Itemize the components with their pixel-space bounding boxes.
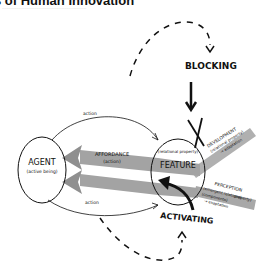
dashed-arc-bottom (100, 218, 182, 260)
blocking-label: BLOCKING (185, 61, 237, 71)
agent-label: AGENT (28, 158, 56, 167)
arrowhead-blocking (206, 46, 214, 52)
action-arc-bottom (48, 200, 158, 216)
activating-label: ACTIVATING (160, 211, 214, 226)
affordance-label: AFFORDANCE (95, 151, 129, 157)
feature-sublabel: (relational property) (158, 149, 199, 154)
feature-label: FEATURE (160, 161, 196, 170)
action-arc-top (52, 117, 158, 140)
arc-bottom-label: action (85, 200, 99, 205)
agent-sublabel: (active being) (26, 169, 57, 174)
affordance-sublabel: (action) (103, 159, 121, 164)
arc-top-label: action (83, 111, 97, 116)
innovation-diagram: AGENT (active being) FEATURE (relational… (0, 0, 277, 273)
arrowhead-activating (178, 232, 186, 238)
